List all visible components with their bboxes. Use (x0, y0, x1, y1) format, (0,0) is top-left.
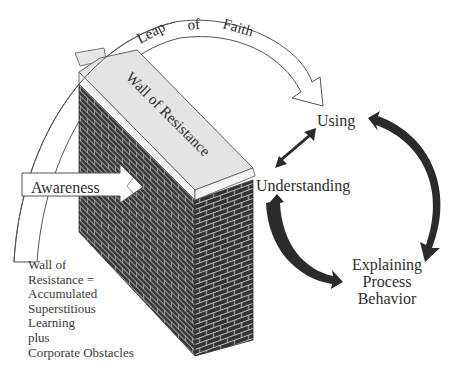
node-using: Using (317, 112, 355, 130)
awareness-label: Awareness (31, 179, 100, 197)
node-understanding: Understanding (256, 177, 350, 195)
node-explaining-line-3: Behavior (358, 290, 417, 307)
note-line: plus (28, 331, 134, 346)
node-explaining-line-2: Process (363, 273, 412, 290)
wall-definition-note: Wall of Resistance = Accumulated Superst… (28, 258, 134, 360)
node-explaining-line-1: Explaining (352, 256, 422, 274)
note-line: Wall of (28, 258, 134, 273)
using-understanding-arrow (275, 128, 316, 168)
note-line: Accumulated (28, 287, 134, 302)
note-line: Learning (28, 316, 134, 331)
note-line: Corporate Obstacles (28, 346, 134, 361)
explaining-understanding-arrow (266, 194, 343, 289)
note-line: Superstitious (28, 302, 134, 317)
leap-word-2: of (187, 16, 201, 33)
note-line: Resistance = (28, 273, 134, 288)
using-to-explaining-arrow (368, 111, 441, 262)
